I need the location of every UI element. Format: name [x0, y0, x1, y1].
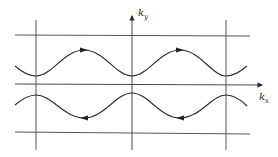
orbit-arrow-right-icon: [176, 48, 184, 53]
bottom-zone-boundary-line: [15, 132, 250, 134]
ky-axis-label: ky: [138, 7, 149, 21]
open-orbit-diagram: ky kx: [0, 0, 278, 157]
kx-axis: [15, 84, 262, 85]
orbit-arrow-left-icon: [80, 116, 88, 121]
orbit-arrow-left-icon: [176, 116, 184, 121]
kx-axis-label: kx: [259, 91, 269, 105]
upper-open-orbit: [15, 50, 247, 76]
orbit-arrow-right-icon: [80, 48, 88, 53]
top-zone-boundary-line: [15, 35, 250, 36]
lower-open-orbit: [15, 93, 247, 118]
